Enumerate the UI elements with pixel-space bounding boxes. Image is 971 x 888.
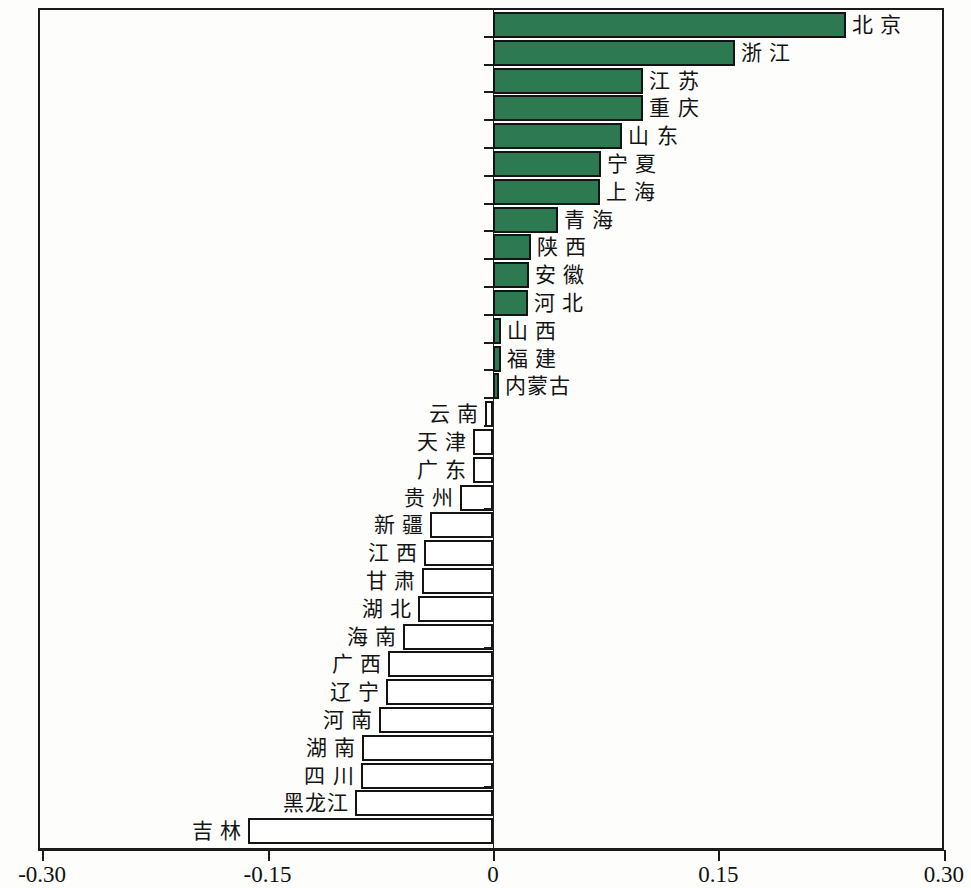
- bar-category-label: 山 西: [507, 320, 557, 341]
- bar-category-label: 内蒙古: [505, 376, 571, 397]
- bar-positive: [493, 346, 501, 372]
- bar-row: 宁 夏: [493, 151, 601, 177]
- bar-negative: [362, 735, 493, 761]
- x-axis-tick: [493, 850, 495, 861]
- bar-category-label: 福 建: [507, 348, 557, 369]
- bar-category-label: 海 南: [347, 626, 397, 647]
- bar-category-label: 广 西: [332, 654, 382, 675]
- category-axis-tick: [484, 759, 493, 761]
- bar-category-label: 湖 南: [306, 737, 356, 758]
- category-axis-tick: [484, 64, 493, 66]
- bar-category-label: 上 海: [606, 181, 656, 202]
- x-axis-tick: [268, 850, 270, 861]
- bar-positive: [493, 12, 846, 38]
- category-axis-tick: [484, 258, 493, 260]
- x-axis-tick-label: 0.30: [924, 862, 964, 888]
- bar-negative: [418, 596, 493, 622]
- bar-category-label: 河 北: [534, 293, 584, 314]
- bar-category-label: 青 海: [564, 209, 614, 230]
- category-axis-tick: [484, 620, 493, 622]
- bar-negative: [473, 429, 493, 455]
- bar-row: 陕 西: [493, 234, 531, 260]
- category-axis-tick: [484, 647, 493, 649]
- bar-row: 河 南: [379, 707, 493, 733]
- category-axis-tick: [484, 369, 493, 371]
- bar-negative: [424, 540, 493, 566]
- bar-positive: [493, 207, 558, 233]
- category-axis-tick: [484, 203, 493, 205]
- bar-category-label: 吉 林: [192, 821, 242, 842]
- category-axis-tick: [484, 36, 493, 38]
- bar-row: 内蒙古: [493, 373, 499, 399]
- bar-row: 河 北: [493, 290, 528, 316]
- bar-negative: [422, 568, 493, 594]
- bar-row: 黑龙江: [355, 790, 493, 816]
- bar-category-label: 江 苏: [649, 70, 699, 91]
- category-axis-tick: [484, 703, 493, 705]
- bar-row: 上 海: [493, 179, 600, 205]
- category-axis-tick: [484, 119, 493, 121]
- bar-category-label: 重 庆: [649, 98, 699, 119]
- bar-positive: [493, 40, 735, 66]
- bar-category-label: 浙 江: [741, 42, 791, 63]
- bar-row: 辽 宁: [386, 679, 493, 705]
- x-axis-tick-label: -0.15: [244, 862, 292, 888]
- bar-category-label: 天 津: [417, 432, 467, 453]
- bar-positive: [493, 262, 529, 288]
- category-axis-tick: [484, 675, 493, 677]
- bar-category-label: 山 东: [628, 126, 678, 147]
- x-axis-tick: [944, 850, 946, 861]
- horizontal-bar-chart: 北 京浙 江江 苏重 庆山 东宁 夏上 海青 海陕 西安 徽河 北山 西福 建内…: [0, 0, 971, 888]
- bar-category-label: 湖 北: [362, 598, 412, 619]
- bar-positive: [493, 95, 643, 121]
- bar-category-label: 陕 西: [537, 237, 587, 258]
- x-axis-line: [38, 849, 944, 851]
- category-axis-tick: [484, 314, 493, 316]
- bar-negative: [388, 651, 493, 677]
- bar-row: 江 西: [424, 540, 493, 566]
- category-axis-tick: [484, 786, 493, 788]
- bar-negative: [460, 485, 493, 511]
- bar-row: 天 津: [473, 429, 493, 455]
- bar-row: 广 西: [388, 651, 493, 677]
- bar-category-label: 甘 肃: [366, 571, 416, 592]
- bar-positive: [493, 234, 531, 260]
- bar-row: 广 东: [473, 457, 493, 483]
- category-axis-tick: [484, 564, 493, 566]
- bar-row: 贵 州: [460, 485, 493, 511]
- bar-category-label: 辽 宁: [330, 682, 380, 703]
- bar-negative: [248, 818, 493, 844]
- bar-row: 重 庆: [493, 95, 643, 121]
- x-axis-tick: [42, 850, 44, 861]
- bar-positive: [493, 318, 501, 344]
- bar-category-label: 安 徽: [535, 265, 585, 286]
- bar-category-label: 四 川: [304, 765, 354, 786]
- bar-category-label: 广 东: [417, 459, 467, 480]
- bar-negative: [355, 790, 493, 816]
- category-axis-tick: [484, 425, 493, 427]
- bar-category-label: 河 南: [323, 710, 373, 731]
- bar-positive: [493, 290, 528, 316]
- bar-row: 福 建: [493, 346, 501, 372]
- bar-row: 浙 江: [493, 40, 735, 66]
- bar-negative: [473, 457, 493, 483]
- bar-positive: [493, 68, 643, 94]
- bar-row: 江 苏: [493, 68, 643, 94]
- bar-positive: [493, 123, 622, 149]
- bar-row: 吉 林: [248, 818, 493, 844]
- x-axis-tick: [718, 850, 720, 861]
- category-axis-tick: [484, 397, 493, 399]
- x-axis-tick-label: 0: [487, 862, 499, 888]
- bar-negative: [430, 512, 493, 538]
- bar-row: 安 徽: [493, 262, 529, 288]
- bar-row: 青 海: [493, 207, 558, 233]
- bar-negative: [386, 679, 493, 705]
- category-axis-tick: [484, 814, 493, 816]
- category-axis-tick: [484, 536, 493, 538]
- bar-negative: [361, 763, 493, 789]
- bar-category-label: 云 南: [429, 404, 479, 425]
- x-axis-tick-label: -0.30: [18, 862, 66, 888]
- category-axis-tick: [484, 175, 493, 177]
- bar-row: 甘 肃: [422, 568, 493, 594]
- category-axis-tick: [484, 342, 493, 344]
